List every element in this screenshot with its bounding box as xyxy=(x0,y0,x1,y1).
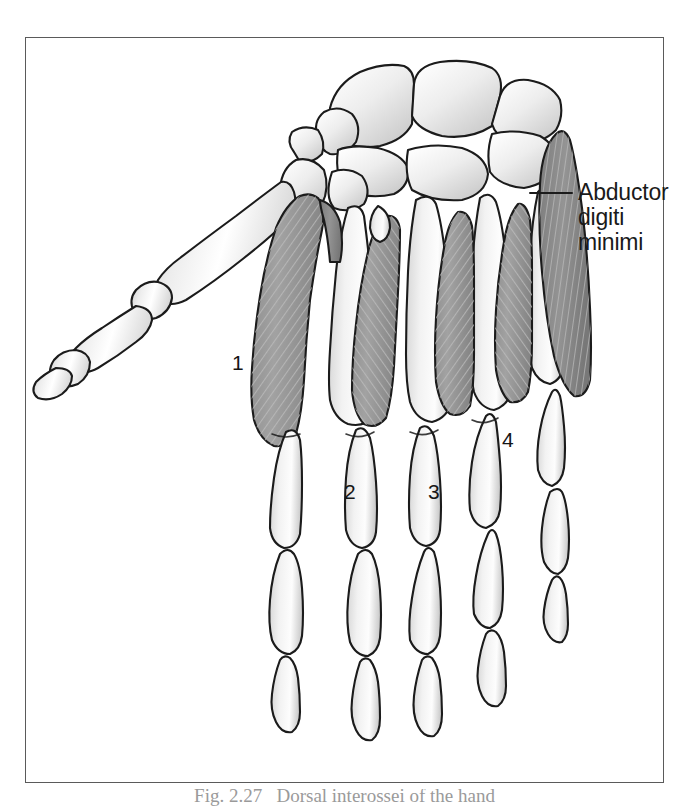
label-interosseous-4: 4 xyxy=(502,429,514,450)
label-interosseous-3: 3 xyxy=(428,481,440,502)
figure-caption-text: Fig. 2.27 Dorsal interossei of the hand xyxy=(25,789,664,806)
label-abductor-digiti-minimi: Abductor digiti minimi xyxy=(578,180,668,255)
label-interosseous-2: 2 xyxy=(344,481,356,502)
figure-root: Abductor digiti minimi 1 2 3 4 Fig. 2.27… xyxy=(0,0,686,806)
label-interosseous-1: 1 xyxy=(232,352,244,373)
carpal-bones xyxy=(280,61,561,213)
figure-caption: Fig. 2.27 Dorsal interossei of the hand xyxy=(25,789,664,806)
hand-anatomy-illustration xyxy=(0,0,686,806)
joint-shading xyxy=(272,418,498,437)
